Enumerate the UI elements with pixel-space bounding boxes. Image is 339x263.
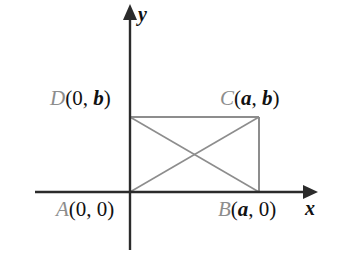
point-d-comma: , <box>83 86 88 110</box>
point-b-open-paren: ( <box>231 197 238 221</box>
point-c-open-paren: ( <box>234 86 241 110</box>
point-c-coord-x: a <box>241 86 252 110</box>
point-d-close-paren: ) <box>104 86 111 110</box>
point-letter-b: B <box>218 197 231 221</box>
point-a-coord-y: 0 <box>97 197 108 221</box>
point-label-d: D(0, b) <box>50 88 111 109</box>
point-label-a: A(0, 0) <box>56 199 114 220</box>
point-d-coord-y: b <box>93 86 104 110</box>
point-c-comma: , <box>252 86 257 110</box>
point-b-coord-x: a <box>238 197 249 221</box>
rectangle-diagonals <box>130 117 259 192</box>
point-letter-d: D <box>50 86 65 110</box>
coordinate-plane-figure: D(0, b) C(a, b) A(0, 0) B(a, 0) x y <box>0 0 339 263</box>
point-c-close-paren: ) <box>273 86 280 110</box>
point-c-coord-y: b <box>262 86 273 110</box>
y-axis-label: y <box>138 4 147 24</box>
point-b-comma: , <box>248 197 253 221</box>
y-axis-arrow-icon <box>123 4 137 20</box>
point-letter-c: C <box>220 86 234 110</box>
figure-canvas <box>0 0 339 263</box>
point-b-coord-y: 0 <box>259 197 270 221</box>
point-a-coord-x: 0 <box>76 197 87 221</box>
point-a-close-paren: ) <box>107 197 114 221</box>
point-letter-a: A <box>56 197 69 221</box>
x-axis-label: x <box>305 198 315 218</box>
point-label-b: B(a, 0) <box>218 199 276 220</box>
point-a-comma: , <box>86 197 91 221</box>
point-a-open-paren: ( <box>69 197 76 221</box>
point-b-close-paren: ) <box>269 197 276 221</box>
point-label-c: C(a, b) <box>220 88 280 109</box>
point-d-coord-x: 0 <box>72 86 83 110</box>
